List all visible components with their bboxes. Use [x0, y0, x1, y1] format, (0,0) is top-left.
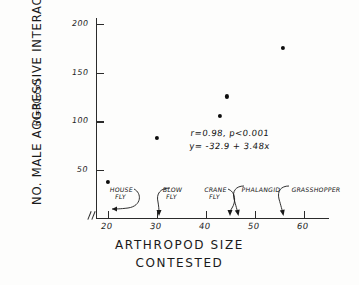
- species-label-line2: FLY: [199, 193, 230, 200]
- species-label-line1: HOUSE: [105, 186, 138, 193]
- y-tick-200: [97, 24, 104, 25]
- x-tick-label-40: 40: [198, 221, 211, 231]
- species-label-line1: PHALANGID: [239, 186, 284, 193]
- chart-figure: 200 150 100 50 20 30 40 50 60: [0, 0, 359, 285]
- y-tick-label-150: 150: [71, 68, 89, 77]
- x-tick-label-60: 60: [296, 221, 309, 231]
- y-tick-label-200: 200: [71, 19, 89, 28]
- x-tick-label-30: 30: [149, 221, 162, 231]
- y-tick-100: [97, 121, 104, 122]
- x-tick-label-20: 20: [100, 221, 113, 231]
- species-callout-blow-fly: BLOW FLY: [156, 186, 188, 200]
- species-label-line1: BLOW: [157, 186, 188, 193]
- datapoint-phalangid: [225, 94, 229, 98]
- y-tick-label-100: 100: [71, 116, 89, 125]
- x-tick-label-50: 50: [247, 221, 260, 231]
- regression-equation-text: y= -32.9 + 3.48x: [189, 140, 271, 153]
- y-tick-150: [97, 73, 104, 74]
- species-callout-phalangid: PHALANGID: [239, 186, 284, 193]
- plot-area: 200 150 100 50 20 30 40 50 60: [0, 0, 359, 285]
- x-axis-title-line2: CONTESTED: [0, 256, 359, 270]
- datapoint-grasshopper: [281, 46, 285, 50]
- species-label-line1: GRASSHOPPER: [288, 186, 345, 193]
- species-label-line1: CRANE: [200, 186, 231, 193]
- y-tick-50: [97, 170, 104, 171]
- x-axis-title-line1: ARTHROPOD SIZE: [0, 238, 359, 252]
- datapoint-blow-fly: [155, 136, 159, 140]
- y-axis-subtitle: (N=30♂♂): [33, 28, 42, 178]
- stats-annotation: r=0.98, p<0.001 y= -32.9 + 3.48x: [189, 127, 272, 152]
- species-callout-house-fly: HOUSE FLY: [104, 186, 138, 200]
- y-tick-label-50: 50: [76, 165, 88, 174]
- species-label-line2: FLY: [156, 193, 187, 200]
- datapoint-crane-fly: [218, 114, 222, 118]
- species-label-line2: FLY: [104, 193, 137, 200]
- correlation-text: r=0.98, p<0.001: [190, 127, 272, 140]
- species-callout-grasshopper: GRASSHOPPER: [288, 186, 345, 193]
- species-callout-crane-fly: CRANE FLY: [199, 186, 231, 200]
